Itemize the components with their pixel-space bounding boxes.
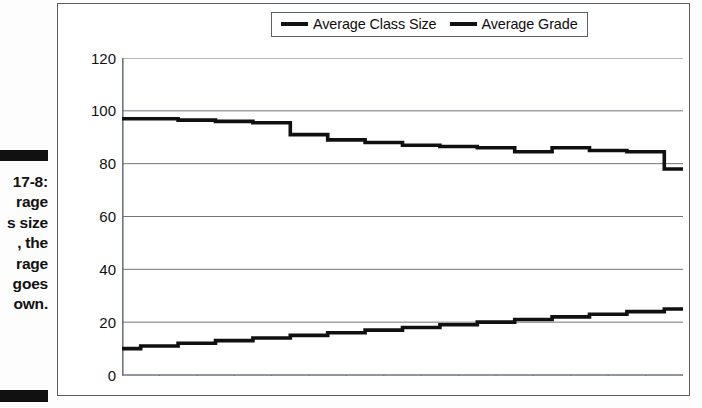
y-tick-100: 100 — [72, 103, 116, 118]
caption-line-0: 17-8: — [0, 172, 48, 192]
series-line-1[interactable] — [122, 309, 683, 349]
y-tick-0: 0 — [72, 368, 116, 383]
caption-line-4: rage — [0, 254, 48, 274]
y-tick-80: 80 — [72, 156, 116, 171]
y-tick-20: 20 — [72, 315, 116, 330]
legend-label-average-grade: Average Grade — [482, 16, 578, 32]
caption-rule-bottom — [0, 390, 48, 402]
caption-line-2: s size — [0, 213, 48, 233]
series-line-0[interactable] — [122, 119, 683, 169]
y-tick-60: 60 — [72, 209, 116, 224]
figure-caption-text: 17-8:rages size, theragegoesown. — [0, 172, 48, 315]
caption-line-1: rage — [0, 192, 48, 212]
legend-item-average-class-size[interactable]: Average Class Size — [281, 16, 437, 32]
legend-label-average-class-size: Average Class Size — [313, 16, 437, 32]
chart-plot-svg — [122, 58, 683, 376]
caption-line-6: own. — [0, 294, 48, 314]
caption-rule-top — [0, 150, 48, 161]
legend-item-average-grade[interactable]: Average Grade — [450, 16, 578, 32]
plot-area — [122, 58, 683, 376]
line-swatch-icon — [281, 22, 308, 25]
y-axis-tick-labels: 120100806040200 — [66, 0, 116, 408]
caption-line-5: goes — [0, 274, 48, 294]
figure-page: 17-8:rages size, theragegoesown. Average… — [0, 0, 702, 408]
line-swatch-icon — [450, 22, 477, 25]
caption-line-3: , the — [0, 233, 48, 253]
y-tick-120: 120 — [72, 51, 116, 66]
figure-caption-block: 17-8:rages size, theragegoesown. — [0, 150, 48, 315]
y-tick-40: 40 — [72, 262, 116, 277]
chart-legend: Average Class Size Average Grade — [271, 12, 588, 37]
